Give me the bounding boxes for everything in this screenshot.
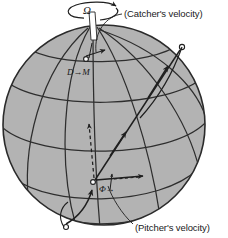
pitcher-position-marker xyxy=(91,180,96,185)
spin-axis-rod xyxy=(89,12,97,40)
physics-figure-rotating-sphere: (Catcher's velocity) (Pitcher's velocity… xyxy=(0,0,228,238)
catcher-velocity-label: (Catcher's velocity) xyxy=(124,8,202,19)
rotation-arrow-back-icon xyxy=(100,8,118,20)
catcher-position-marker xyxy=(84,57,89,62)
catcher-position-label: D→M xyxy=(67,67,90,77)
pitcher-position-label: Φ→ xyxy=(99,184,115,194)
pitcher-velocity-label: (Pitcher's velocity) xyxy=(135,222,210,233)
trajectory-start-marker xyxy=(64,225,69,230)
spin-axis-omega-label: Ω xyxy=(83,4,91,16)
figure-canvas xyxy=(0,0,228,238)
